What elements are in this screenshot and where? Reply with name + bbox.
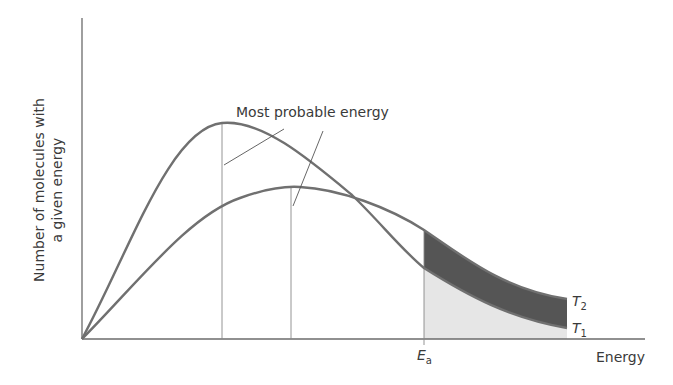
leader-line-t1	[224, 129, 284, 165]
y-axis-label-line1: Number of molecules with	[31, 98, 47, 282]
most-probable-energy-label: Most probable energy	[236, 104, 389, 120]
t1-label: T1	[572, 320, 587, 339]
t1-label-sub: 1	[581, 328, 587, 339]
t2-label-sub: 2	[581, 301, 587, 312]
x-axis-label: Energy	[596, 349, 645, 365]
t2-label: T2	[572, 293, 587, 312]
ea-label-main: E	[417, 347, 426, 363]
ea-label: Ea	[417, 347, 432, 366]
ea-label-sub: a	[426, 355, 432, 366]
y-axis-label-line2: a given energy	[49, 138, 65, 243]
maxwell-boltzmann-chart: Most probable energy Number of molecules…	[0, 0, 673, 385]
curve-t1	[82, 123, 567, 339]
